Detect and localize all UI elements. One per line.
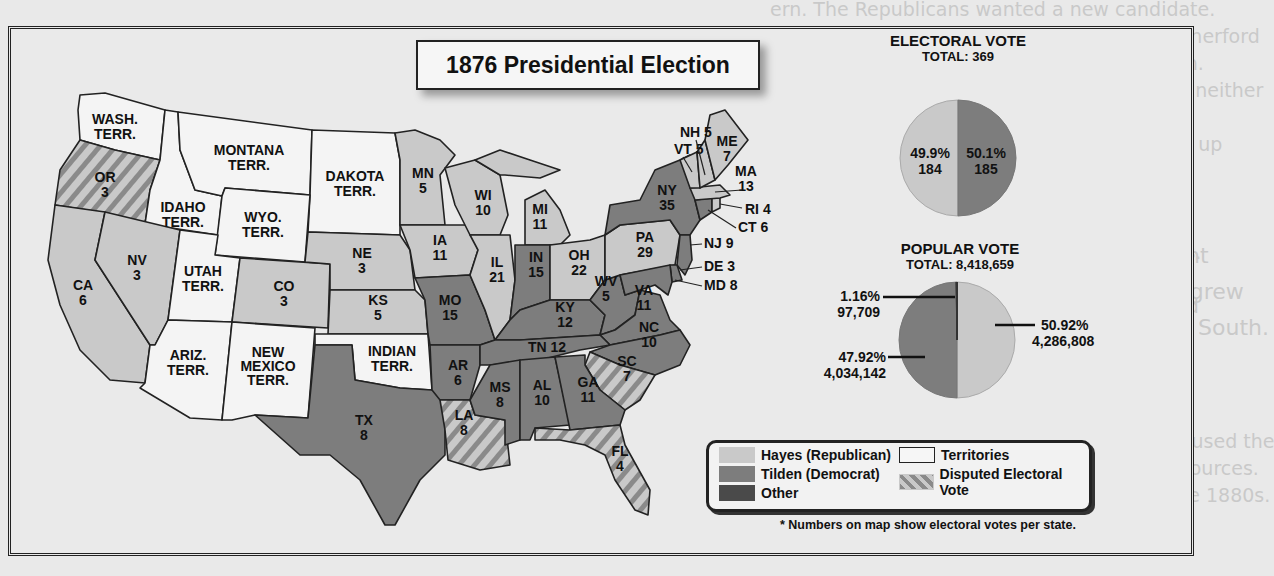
label-dakota: DAKOTATERR. (326, 168, 385, 199)
label-nc: NC10 (639, 319, 659, 350)
ev-tilden-pct: 50.1% (966, 145, 1006, 161)
ev-hayes-pct: 49.9% (910, 145, 950, 161)
legend-label: Territories (941, 447, 1009, 463)
label-nj: NJ 9 (704, 235, 734, 251)
state-fl[interactable] (535, 425, 650, 515)
state-ri[interactable] (712, 198, 720, 212)
label-pa: PA29 (636, 229, 654, 260)
label-al: AL10 (533, 377, 552, 408)
popular-vote-title: POPULAR VOTE TOTAL: 8,418,659 (880, 240, 1040, 272)
label-va: VA11 (635, 282, 653, 313)
label-wyo: WYO.TERR. (242, 209, 284, 240)
ev-hayes-votes: 184 (918, 161, 942, 177)
pv-hayes-pct: 47.92% (839, 349, 887, 365)
other-swatch (719, 485, 755, 501)
label-il: IL21 (489, 254, 505, 285)
pv-other-pct: 1.16% (840, 288, 880, 304)
label-idaho: IDAHOTERR. (160, 199, 205, 230)
popular-vote-total: TOTAL: 8,418,659 (880, 257, 1040, 272)
territories-swatch (899, 447, 935, 463)
label-ky: KY12 (555, 299, 575, 330)
disputed-swatch (899, 474, 934, 490)
hayes-swatch (719, 447, 755, 463)
label-ma: MA13 (735, 163, 757, 194)
label-de: DE 3 (704, 258, 735, 274)
popular-vote-heading: POPULAR VOTE (880, 240, 1040, 257)
label-ri: RI 4 (745, 201, 771, 217)
label-tn: TN 12 (528, 339, 566, 355)
electoral-votes-note: * Numbers on map show electoral votes pe… (780, 518, 1076, 532)
electoral-vote-heading: ELECTORAL VOTE (888, 32, 1028, 49)
label-ia: IA11 (433, 232, 448, 263)
map-legend: Hayes (Republican) Tilden (Democrat) Oth… (706, 440, 1092, 512)
label-mi: MI11 (532, 201, 548, 232)
legend-label: Disputed Electoral Vote (940, 466, 1089, 498)
label-utah: UTAHTERR. (182, 263, 224, 294)
label-ga: GA11 (578, 374, 599, 405)
label-wi: WI10 (474, 187, 491, 218)
legend-label: Tilden (Democrat) (761, 466, 880, 482)
legend-hayes: Hayes (Republican) (719, 447, 891, 463)
legend-tilden: Tilden (Democrat) (719, 466, 880, 482)
label-md: MD 8 (704, 277, 738, 293)
pv-hayes-votes: 4,034,142 (824, 365, 886, 381)
label-in: IN15 (528, 249, 544, 280)
label-nh: NH 5 (680, 124, 712, 140)
legend-label: Hayes (Republican) (761, 447, 891, 463)
map-title: 1876 Presidential Election (416, 40, 760, 90)
electoral-vote-title: ELECTORAL VOTE TOTAL: 369 (888, 32, 1028, 64)
label-wash: WASH.TERR. (92, 111, 138, 142)
label-ct: CT 6 (738, 219, 769, 235)
label-oh: OH22 (569, 247, 590, 278)
pv-tilden-pct: 50.92% (1041, 317, 1089, 333)
legend-disputed: Disputed Electoral Vote (899, 466, 1089, 498)
label-ariz: ARIZ.TERR. (167, 347, 209, 378)
electoral-vote-total: TOTAL: 369 (888, 49, 1028, 64)
tilden-swatch (719, 466, 755, 482)
pv-tilden-votes: 4,286,808 (1032, 333, 1094, 349)
label-indian: INDIANTERR. (368, 343, 416, 374)
legend-territories: Territories (899, 447, 1009, 463)
label-ny: NY35 (657, 182, 677, 213)
ev-tilden-votes: 185 (974, 161, 998, 177)
popular-vote-pie (899, 282, 1015, 398)
legend-label: Other (761, 485, 798, 501)
pv-other-votes: 97,709 (837, 304, 880, 320)
legend-other: Other (719, 485, 798, 501)
